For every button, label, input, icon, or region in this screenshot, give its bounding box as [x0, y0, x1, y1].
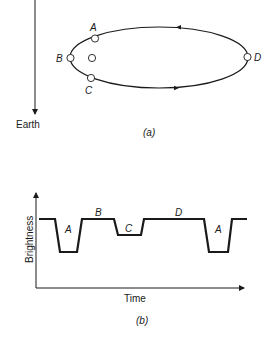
- position-a-label: A: [89, 22, 97, 33]
- segment-a2-label: A: [214, 224, 222, 235]
- y-axis-label: Brightness: [24, 216, 35, 263]
- orbit-direction-arrow-top: [176, 25, 181, 30]
- segment-b-label: B: [95, 207, 102, 218]
- eclipsing-binary-figure: Earth A B C D (a) Brightness Time A B C …: [0, 0, 271, 340]
- position-a-marker: [91, 35, 98, 42]
- central-star-icon: [88, 54, 95, 61]
- segment-a-label: A: [64, 224, 72, 235]
- position-b-marker: [67, 54, 74, 61]
- orbit-diagram: Earth A B C D (a): [16, 0, 261, 138]
- position-b-label: B: [56, 53, 63, 64]
- segment-d-label: D: [175, 207, 182, 218]
- light-curve-diagram: Brightness Time A B C D A (b): [24, 193, 247, 326]
- caption-b: (b): [136, 315, 148, 326]
- position-d-label: D: [254, 52, 261, 63]
- orbit-direction-arrow-bottom: [174, 86, 179, 91]
- position-c-label: C: [85, 85, 93, 96]
- position-d-marker: [244, 53, 251, 60]
- earth-label: Earth: [16, 119, 40, 130]
- x-axis-label: Time: [124, 293, 146, 304]
- caption-a: (a): [143, 127, 155, 138]
- position-c-marker: [87, 74, 94, 81]
- segment-c-label: C: [125, 223, 133, 234]
